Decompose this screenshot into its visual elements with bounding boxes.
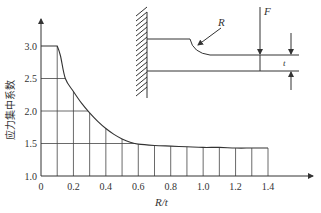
hatch-stroke	[136, 67, 147, 76]
x-tick-label: 0.6	[132, 181, 145, 192]
hatch-stroke	[136, 47, 147, 56]
x-tick-label: 1.0	[197, 181, 210, 192]
y-tick-label: 1.5	[25, 138, 38, 149]
hatch-stroke	[136, 37, 147, 46]
hatch-stroke	[136, 77, 147, 86]
y-tick-label: 1.0	[25, 171, 38, 182]
hatch-stroke	[136, 57, 147, 66]
x-tick-label: 1.2	[229, 181, 242, 192]
x-tick-label: 0.4	[100, 181, 113, 192]
grid-lines	[41, 46, 268, 176]
hatch-stroke	[136, 27, 147, 36]
stress-concentration-curve	[41, 46, 268, 148]
hatch-stroke	[136, 42, 147, 51]
y-tick-label: 2.0	[25, 106, 38, 117]
x-tick-label: 0	[39, 181, 44, 192]
radius-leader-arrow	[198, 28, 221, 45]
cantilever-diagram: R F t	[136, 5, 299, 98]
hatch-stroke	[136, 62, 147, 71]
y-axis-label: 应力集中系数	[4, 80, 16, 140]
thickness-label: t	[283, 58, 286, 68]
y-tick-labels: 1.01.52.02.53.0	[25, 41, 38, 182]
x-tick-label: 0.8	[164, 181, 177, 192]
x-tick-labels: 00.20.40.60.81.01.21.4	[39, 181, 275, 192]
hatch-stroke	[136, 22, 147, 31]
radius-label: R	[217, 16, 225, 28]
x-axis-label: R/t	[154, 196, 169, 208]
y-tick-label: 2.5	[25, 73, 38, 84]
axes	[41, 19, 313, 176]
hatch-stroke	[136, 52, 147, 61]
wall-hatch	[136, 7, 147, 98]
hatch-stroke	[136, 32, 147, 41]
x-tick-label: 1.4	[262, 181, 275, 192]
x-tick-label: 0.2	[67, 181, 80, 192]
y-tick-label: 3.0	[25, 41, 38, 52]
hatch-stroke	[136, 87, 147, 96]
stress-concentration-figure: 00.20.40.60.81.01.21.4 1.01.52.02.53.0 R…	[0, 0, 321, 213]
hatch-stroke	[136, 12, 147, 21]
beam-upper-edge-with-fillet	[147, 39, 262, 55]
hatch-stroke	[136, 7, 147, 16]
hatch-stroke	[136, 17, 147, 26]
wall-hatching	[136, 7, 147, 96]
hatch-stroke	[136, 72, 147, 81]
force-label: F	[263, 5, 271, 17]
hatch-stroke	[136, 82, 147, 91]
